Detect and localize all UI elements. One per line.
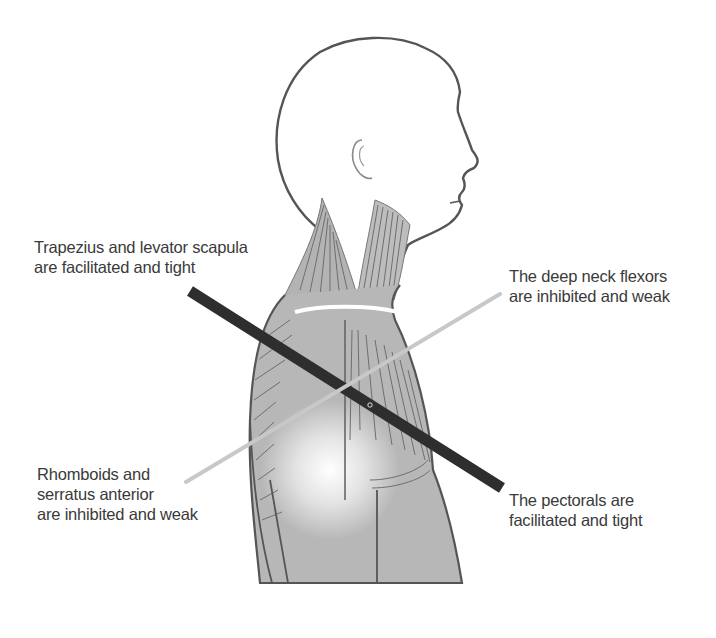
label-line: The pectorals are — [509, 490, 642, 510]
label-rhomboids-serratus: Rhomboids and serratus anterior are inhi… — [37, 464, 198, 524]
label-deep-neck-flexors: The deep neck flexors are inhibited and … — [509, 266, 670, 306]
label-trapezius-levator: Trapezius and levator scapula are facili… — [34, 237, 248, 277]
label-line: Trapezius and levator scapula — [34, 237, 248, 257]
label-pectorals: The pectorals are facilitated and tight — [509, 490, 642, 530]
label-line: are inhibited and weak — [37, 504, 198, 524]
upper-crossed-syndrome-figure: Trapezius and levator scapula are facili… — [0, 0, 716, 638]
anatomy-illustration — [0, 0, 716, 638]
label-line: are inhibited and weak — [509, 286, 670, 306]
torso — [250, 285, 462, 583]
label-line: The deep neck flexors — [509, 266, 670, 286]
label-line: facilitated and tight — [509, 510, 642, 530]
label-line: Rhomboids and — [37, 464, 198, 484]
label-line: serratus anterior — [37, 484, 198, 504]
label-line: are facilitated and tight — [34, 257, 248, 277]
